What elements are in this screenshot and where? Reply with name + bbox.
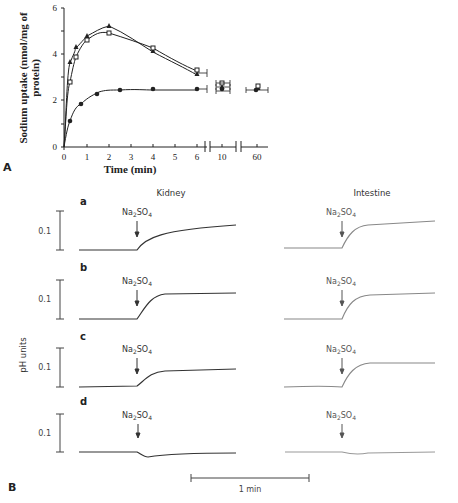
xtick: 10 xyxy=(218,152,228,162)
ytick-0: 0 xyxy=(53,142,58,152)
ph-units-label: pH units xyxy=(18,337,28,373)
panel-b-headers: Kidney Intestine xyxy=(157,188,391,198)
stimulus-label: Na2SO4 xyxy=(326,208,356,218)
stimulus-label: Na2SO4 xyxy=(122,208,152,218)
arrow-icon xyxy=(340,358,344,374)
ytick-2: 2 xyxy=(53,95,58,105)
stimulus-label: Na2SO4 xyxy=(122,411,152,421)
stimulus-label: Na2SO4 xyxy=(326,411,356,421)
row-a: a 0.1 Na2SO4 Na2SO4 xyxy=(38,196,435,250)
row-label-b: b xyxy=(80,262,87,273)
stimulus-label: Na2SO4 xyxy=(326,345,356,355)
intestine-trace-a xyxy=(284,221,435,248)
kidney-trace-d xyxy=(79,452,236,457)
arrow-icon xyxy=(135,221,139,237)
stimulus-label: Na2SO4 xyxy=(122,345,152,355)
arrow-icon xyxy=(136,424,140,438)
arrow-icon xyxy=(135,358,139,374)
kidney-column-header: Kidney xyxy=(157,188,186,198)
triangle-markers xyxy=(68,23,261,90)
panel-a-label: A xyxy=(3,161,12,174)
xtick: 2 xyxy=(107,152,112,162)
intestine-trace-b xyxy=(284,293,435,319)
svg-text:protein): protein) xyxy=(29,59,42,97)
row-label-d: d xyxy=(80,396,87,407)
arrow-icon xyxy=(340,424,344,438)
intestine-column-header: Intestine xyxy=(353,188,390,198)
scale-value: 0.1 xyxy=(38,227,51,236)
stimulus-label: Na2SO4 xyxy=(122,277,152,287)
panel-a-markers xyxy=(68,23,269,123)
arrow-icon xyxy=(340,221,344,237)
panel-b-label: B xyxy=(8,481,16,494)
scale-bar-d xyxy=(56,414,64,452)
row-d: d 0.1 Na2SO4 Na2SO4 xyxy=(38,396,435,457)
scale-bar-b xyxy=(56,280,64,319)
panel-a-chart xyxy=(61,8,268,152)
arrow-icon xyxy=(340,290,344,306)
time-scale-bar xyxy=(191,474,309,482)
scale-value: 0.1 xyxy=(38,363,51,372)
arrow-icon xyxy=(135,290,139,306)
error-bars xyxy=(197,69,268,94)
series-circle-line xyxy=(64,90,197,147)
row-b: b 0.1 Na2SO4 Na2SO4 xyxy=(38,262,435,319)
kidney-trace-b xyxy=(79,293,236,319)
xtick: 0 xyxy=(62,152,67,162)
y-axis-label: Sodium uptake (nmol/mg of protein) xyxy=(17,12,42,143)
row-c: c 0.1 Na2SO4 Na2SO4 xyxy=(38,331,435,387)
kidney-trace-a xyxy=(79,225,236,250)
panel-a-ticks: 6 4 2 0 0 1 2 3 4 5 6 10 60 xyxy=(53,3,263,162)
xtick: 60 xyxy=(253,152,263,162)
figure: 6 4 2 0 0 1 2 3 4 5 6 10 60 Time (min) S… xyxy=(0,0,458,503)
scale-bar-c xyxy=(56,348,64,387)
square-markers xyxy=(68,31,260,88)
x-axis-label: Time (min) xyxy=(104,163,157,176)
intestine-trace-d xyxy=(285,452,435,454)
intestine-trace-c xyxy=(284,363,435,387)
xtick: 3 xyxy=(129,152,134,162)
panel-a-curves xyxy=(64,26,197,147)
scale-value: 0.1 xyxy=(38,295,51,304)
row-label-a: a xyxy=(80,196,87,207)
time-scale-label: 1 min xyxy=(239,485,262,494)
scale-bar-a xyxy=(56,211,64,250)
scale-value: 0.1 xyxy=(38,429,51,438)
xtick: 6 xyxy=(195,152,200,162)
xtick: 1 xyxy=(85,152,90,162)
kidney-trace-c xyxy=(79,369,236,387)
stimulus-label: Na2SO4 xyxy=(326,277,356,287)
ytick-6: 6 xyxy=(53,3,58,13)
xtick: 5 xyxy=(173,152,178,162)
series-triangle-line xyxy=(64,26,197,147)
row-label-c: c xyxy=(80,331,86,342)
ytick-4: 4 xyxy=(53,49,58,59)
xtick: 4 xyxy=(151,152,156,162)
